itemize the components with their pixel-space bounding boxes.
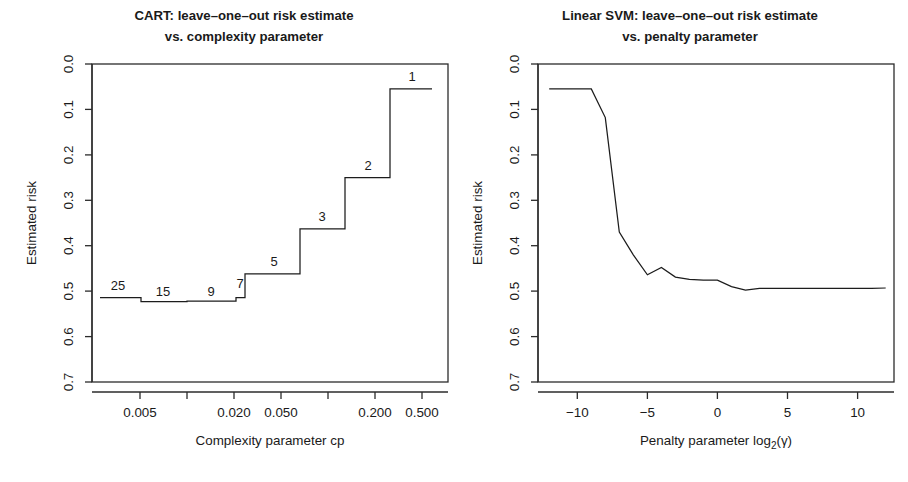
cart-title-line1: CART: leave–one–out risk estimate bbox=[134, 8, 353, 23]
cart-xtick-6: 0.500 bbox=[405, 405, 439, 420]
cart-xtick-5: 0.200 bbox=[358, 405, 392, 420]
svm-chart-svg: Linear SVM: leave–one–out risk estimate … bbox=[454, 0, 908, 482]
cart-plot-frame bbox=[92, 64, 448, 382]
svm-ytick-4: 0.3 bbox=[507, 191, 522, 210]
svm-xtick-2: 0 bbox=[714, 405, 721, 420]
cart-y-axis-label: Estimated risk bbox=[24, 181, 39, 265]
svm-ytick-7: 0.0 bbox=[507, 55, 522, 74]
cart-ytick-5: 0.2 bbox=[61, 146, 76, 165]
cart-ytick-2: 0.5 bbox=[61, 282, 76, 301]
cart-ytick-6: 0.1 bbox=[61, 100, 76, 119]
svm-x-axis-label-prefix: Penalty parameter log bbox=[640, 433, 771, 448]
svm-ytick-2: 0.5 bbox=[507, 282, 522, 301]
svm-ytick-6: 0.1 bbox=[507, 100, 522, 119]
figure-row: CART: leave–one–out risk estimate vs. co… bbox=[0, 0, 908, 482]
svm-ytick-3: 0.4 bbox=[507, 236, 522, 255]
cart-ytick-1: 0.6 bbox=[61, 327, 76, 346]
svm-xtick-4: 10 bbox=[850, 405, 865, 420]
svm-plot-frame bbox=[538, 64, 894, 382]
cart-point-label-1: 1 bbox=[408, 69, 415, 84]
cart-xtick-2: 0.020 bbox=[217, 405, 251, 420]
cart-point-label-3: 3 bbox=[318, 209, 325, 224]
svm-xtick-0: −10 bbox=[566, 405, 589, 420]
cart-chart-svg: CART: leave–one–out risk estimate vs. co… bbox=[0, 0, 454, 482]
svm-x-axis bbox=[538, 392, 894, 399]
cart-y-ticklabels: 0.7 0.6 0.5 0.4 0.3 0.2 0.1 0.0 bbox=[61, 55, 76, 392]
cart-x-axis-label: Complexity parameter cp bbox=[196, 433, 345, 448]
svm-xtick-3: 5 bbox=[784, 405, 791, 420]
cart-point-label-15: 15 bbox=[156, 284, 170, 299]
panel-linear-svm: Linear SVM: leave–one–out risk estimate … bbox=[454, 0, 908, 482]
svm-xtick-1: −5 bbox=[640, 405, 655, 420]
svm-y-ticklabels: 0.7 0.6 0.5 0.4 0.3 0.2 0.1 0.0 bbox=[507, 55, 522, 392]
cart-point-label-9: 9 bbox=[207, 284, 214, 299]
svm-risk-curve bbox=[549, 89, 886, 290]
svm-ytick-5: 0.2 bbox=[507, 146, 522, 165]
svm-x-ticklabels: −10 −5 0 5 10 bbox=[566, 405, 865, 420]
cart-x-ticklabels: 0.005 0.020 0.050 0.200 0.500 bbox=[123, 405, 439, 420]
cart-step-curve bbox=[100, 89, 432, 302]
cart-point-label-7: 7 bbox=[236, 276, 243, 291]
cart-ytick-0: 0.7 bbox=[61, 373, 76, 392]
cart-xtick-3: 0.050 bbox=[264, 405, 298, 420]
cart-point-label-2: 2 bbox=[364, 158, 371, 173]
cart-title-line2: vs. complexity parameter bbox=[165, 29, 323, 44]
svm-title-line2: vs. penalty parameter bbox=[622, 29, 758, 44]
svm-x-axis-label: Penalty parameter log2(γ) bbox=[640, 433, 792, 451]
cart-y-axis bbox=[85, 64, 92, 382]
cart-ytick-7: 0.0 bbox=[61, 55, 76, 74]
cart-ytick-3: 0.4 bbox=[61, 236, 76, 255]
cart-point-label-25: 25 bbox=[111, 278, 125, 293]
svm-ytick-0: 0.7 bbox=[507, 373, 522, 392]
svm-x-axis-label-suffix: (γ) bbox=[776, 433, 792, 448]
svm-y-axis bbox=[531, 64, 538, 382]
svm-ytick-1: 0.6 bbox=[507, 327, 522, 346]
cart-point-labels: 25 15 9 7 5 3 2 1 bbox=[111, 69, 416, 299]
cart-ytick-4: 0.3 bbox=[61, 191, 76, 210]
panel-cart: CART: leave–one–out risk estimate vs. co… bbox=[0, 0, 454, 482]
cart-xtick-0: 0.005 bbox=[123, 405, 157, 420]
cart-point-label-5: 5 bbox=[270, 254, 277, 269]
svm-title-line1: Linear SVM: leave–one–out risk estimate bbox=[562, 8, 818, 23]
svm-y-axis-label: Estimated risk bbox=[470, 181, 485, 265]
cart-x-axis bbox=[92, 392, 448, 399]
